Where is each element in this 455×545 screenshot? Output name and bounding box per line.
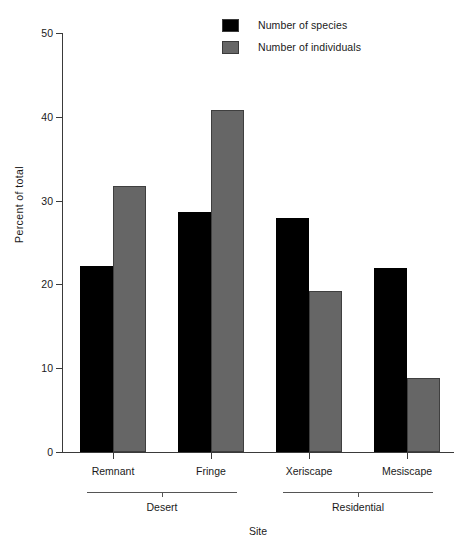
y-tick-mark [62,201,68,202]
y-tick-label: 30 [41,195,53,207]
y-tick-mark [62,452,68,453]
x-tick-mark [113,452,114,459]
group-bracket-tick [162,492,163,497]
bar-remnant-species [80,266,113,452]
legend-label-species: Number of species [258,19,347,31]
y-axis-line [62,33,63,452]
y-tick-mark [62,368,68,369]
x-tick-mark [407,452,408,459]
bar-fringe-individuals [211,110,244,452]
legend-swatch-species [222,19,239,32]
x-tick-label-fringe: Fringe [196,465,226,477]
x-axis-title: Site [249,525,267,537]
bar-xeriscape-individuals [309,291,342,452]
bar-xeriscape-species [276,218,309,452]
plot-area: 01020304050 RemnantFringeXeriscapeMesisc… [62,33,454,452]
x-axis-line [62,452,454,453]
y-tick-mark [62,33,68,34]
y-tick-label: 20 [41,278,53,290]
y-tick-mark [62,117,68,118]
group-label-residential: Residential [332,501,384,513]
x-tick-mark [211,452,212,459]
x-tick-label-remnant: Remnant [92,465,135,477]
x-tick-label-xeriscape: Xeriscape [286,465,333,477]
bar-mesiscape-individuals [407,378,440,452]
bar-remnant-individuals [113,186,146,452]
y-tick-label: 50 [41,27,53,39]
group-label-desert: Desert [147,501,178,513]
bar-mesiscape-species [374,268,407,452]
y-axis-title: Percent of total [13,166,25,243]
bar-fringe-species [178,212,211,452]
y-tick-label: 0 [47,446,53,458]
y-tick-mark [62,284,68,285]
x-tick-mark [309,452,310,459]
x-tick-label-mesiscape: Mesiscape [382,465,432,477]
y-tick-label: 40 [41,111,53,123]
y-tick-label: 10 [41,362,53,374]
group-bracket-tick [358,492,359,497]
bar-chart-figure: Number of species Number of individuals … [0,0,455,545]
